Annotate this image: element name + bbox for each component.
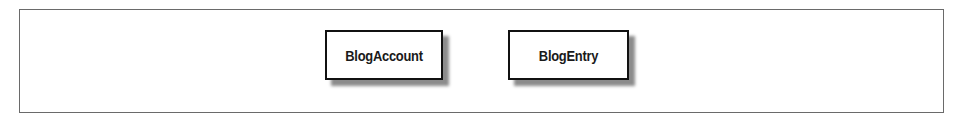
entity-label: BlogEntry: [539, 47, 598, 64]
entity-box-blogaccount: BlogAccount: [325, 30, 443, 80]
diagram-frame: [19, 9, 944, 113]
entity-box-blogentry: BlogEntry: [508, 30, 629, 80]
entity-label: BlogAccount: [345, 47, 422, 64]
